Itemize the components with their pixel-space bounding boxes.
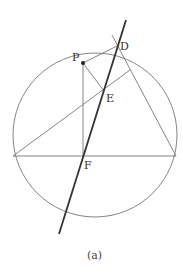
label-f: F bbox=[84, 159, 92, 172]
segment-pe bbox=[83, 63, 104, 91]
point-p-dot bbox=[81, 61, 85, 65]
label-e: E bbox=[106, 92, 114, 105]
figure-caption: (a) bbox=[87, 249, 102, 262]
label-p: P bbox=[72, 51, 80, 64]
simson-line bbox=[59, 20, 126, 234]
circumcircle bbox=[13, 53, 177, 217]
side-left-to-top bbox=[13, 70, 130, 156]
geometry-figure: P D E F (a) bbox=[0, 0, 183, 274]
label-d: D bbox=[120, 40, 129, 53]
